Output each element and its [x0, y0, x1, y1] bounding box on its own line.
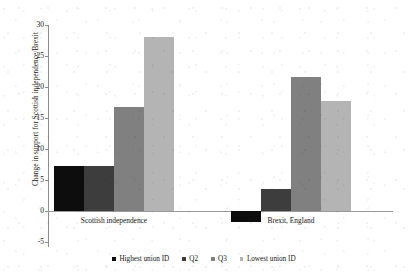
legend-swatch-icon — [182, 257, 186, 261]
y-axis-title: Change in support for Scottish independe… — [32, 9, 40, 209]
bar — [291, 77, 321, 211]
chart-legend: Highest union IDQ2Q3Lowest union ID — [0, 255, 408, 263]
y-tick-label: 20 — [37, 83, 45, 91]
category-label: Brexit, England — [231, 216, 351, 225]
legend-label: Q3 — [218, 255, 227, 263]
bar — [114, 107, 144, 211]
y-tick-label: 15 — [37, 114, 45, 122]
bars-layer — [48, 20, 393, 247]
bar-chart: Change in support for Scottish independe… — [0, 0, 408, 278]
bar — [261, 189, 291, 211]
legend-swatch-icon — [112, 257, 116, 261]
legend-item: Q3 — [211, 255, 227, 263]
category-label: Scottish independence — [54, 216, 174, 225]
bar — [321, 101, 351, 211]
legend-item: Lowest union ID — [240, 255, 296, 263]
bar — [84, 166, 114, 211]
legend-swatch-icon — [240, 257, 244, 261]
y-tick-label: 25 — [37, 52, 45, 60]
y-tick-label: 10 — [37, 145, 45, 153]
y-tick-label: 0 — [40, 207, 44, 215]
plot-area: -5051015202530 Scottish independenceBrex… — [48, 20, 393, 247]
legend-label: Lowest union ID — [247, 255, 296, 263]
bar — [144, 37, 174, 211]
legend-label: Highest union ID — [119, 255, 169, 263]
legend-item: Q2 — [182, 255, 198, 263]
y-tick-label: 30 — [37, 21, 45, 29]
legend-label: Q2 — [189, 255, 198, 263]
legend-swatch-icon — [211, 257, 215, 261]
y-tick-label: 5 — [40, 176, 44, 184]
y-tick-label: -5 — [38, 238, 44, 246]
legend-item: Highest union ID — [112, 255, 169, 263]
bar — [54, 166, 84, 211]
